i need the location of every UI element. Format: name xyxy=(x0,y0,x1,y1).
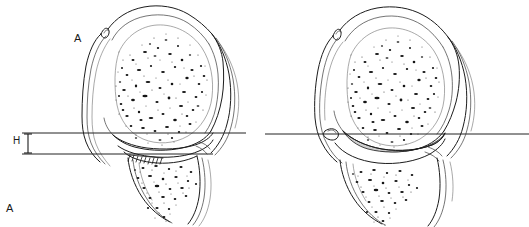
femur-trabeculae-a xyxy=(118,39,205,141)
tibia-trabeculae-b xyxy=(352,169,418,222)
panel-b: B B xyxy=(265,0,529,227)
panel-a-drawing xyxy=(0,0,265,227)
panel-a-inner-label: A xyxy=(74,33,82,44)
femur-trabeculae-b xyxy=(350,41,437,143)
femur-trabeculae-fine-a xyxy=(115,34,207,146)
tibia-trabeculae-fine-b xyxy=(358,173,412,225)
panel-a-corner-label: A xyxy=(6,203,14,214)
height-measurement-label: H xyxy=(13,136,20,146)
femur-trabeculae-fine-b xyxy=(347,36,439,148)
panel-b-drawing xyxy=(265,0,529,227)
caliper-h xyxy=(24,134,32,153)
panel-a: A A H xyxy=(0,0,265,227)
knee-joint-figure: A A H xyxy=(0,0,529,227)
tibia-trabeculae-a xyxy=(134,165,197,218)
tibia-trabeculae-fine-a xyxy=(140,169,190,221)
